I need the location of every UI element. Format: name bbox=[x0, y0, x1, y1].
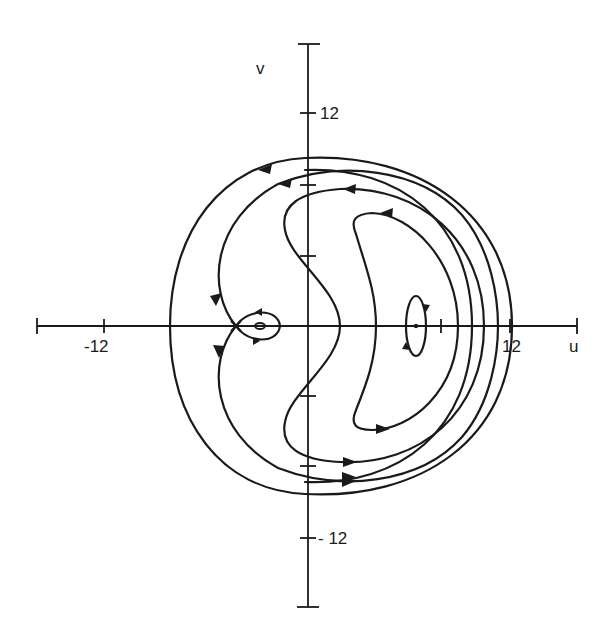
right-center-point bbox=[414, 324, 418, 328]
arrow-icon bbox=[343, 457, 357, 467]
u-tick-label-neg12: -12 bbox=[84, 337, 109, 356]
arrow-icon bbox=[255, 308, 262, 316]
arrow-icon bbox=[376, 424, 390, 434]
v-axis-label: v bbox=[256, 59, 265, 78]
v-tick-label-pos12: 12 bbox=[320, 104, 339, 123]
v-tick-label-neg12: - 12 bbox=[318, 529, 347, 548]
arrow-icon bbox=[343, 184, 356, 194]
phase-portrait-svg: v 12 - 12 -12 12 u bbox=[0, 0, 607, 636]
phase-portrait-figure: v 12 - 12 -12 12 u bbox=[0, 0, 607, 636]
arrow-icon bbox=[210, 293, 222, 306]
u-axis-label: u bbox=[569, 337, 578, 356]
